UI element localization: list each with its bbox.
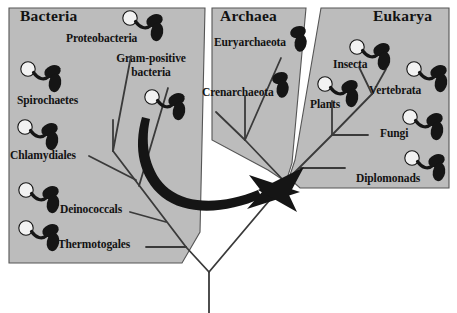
taxon-label-spirochaetes: Spirochaetes xyxy=(17,94,78,106)
taxon-label-chlamydiales: Chlamydiales xyxy=(10,149,76,161)
panel-bacteria xyxy=(9,8,205,263)
taxon-label-diplomonads: Diplomonads xyxy=(356,172,420,184)
root-fork-left xyxy=(186,247,209,272)
taxon-label-plants: Plants xyxy=(310,98,340,110)
taxon-label-insecta: Insecta xyxy=(333,58,367,70)
taxon-label-deinococcals: Deinococcals xyxy=(60,203,122,215)
domain-title-archaea: Archaea xyxy=(220,8,277,24)
taxon-label-euryarchaeota: Euryarchaeota xyxy=(214,36,286,48)
taxon-label-gram-positive-bacteria-line1: Gram-positive xyxy=(113,52,189,64)
tree-of-life-figure: Bacteria Proteobacteria Gram-positive ba… xyxy=(0,0,457,313)
domain-title-eukarya: Eukarya xyxy=(373,8,432,24)
taxon-label-gram-positive-bacteria-line2: bacteria xyxy=(113,66,189,78)
taxon-label-proteobacteria: Proteobacteria xyxy=(66,32,137,44)
taxon-label-crenarchaeota: Crenarchaeota xyxy=(202,86,274,98)
taxon-label-thermotogales: Thermotogales xyxy=(58,238,130,250)
domain-title-bacteria: Bacteria xyxy=(20,8,78,24)
taxon-label-vertebrata: Vertebrata xyxy=(369,84,421,96)
taxon-label-fungi: Fungi xyxy=(380,127,408,139)
